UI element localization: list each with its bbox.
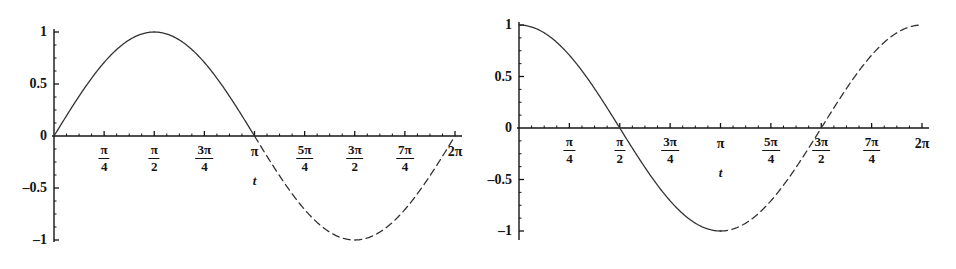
y-axis-tick-label: –0.5	[23, 181, 48, 195]
x-axis-variable-label: t	[719, 166, 723, 179]
fraction-numerator: π	[99, 143, 110, 159]
fraction-denominator: 4	[196, 159, 214, 174]
x-axis-tick-label-fraction: 7π4	[863, 135, 881, 165]
fraction-denominator: 4	[661, 151, 679, 166]
x-axis-tick-label-fraction: π2	[614, 135, 625, 165]
fraction-denominator: 4	[564, 151, 575, 166]
fraction-numerator: 3π	[346, 143, 364, 159]
y-axis-tick-label: 1	[40, 25, 47, 39]
fraction-numerator: 3π	[661, 135, 679, 151]
cosine-plot-canvas	[478, 0, 956, 269]
fraction-numerator: 3π	[196, 143, 214, 159]
fraction-denominator: 2	[149, 159, 160, 174]
x-axis-tick-label: π	[251, 145, 259, 159]
fraction-numerator: 3π	[812, 135, 830, 151]
y-axis-tick-label: 1	[505, 18, 512, 32]
y-axis-tick-label: –0.5	[488, 173, 513, 187]
fraction-denominator: 4	[863, 151, 881, 166]
x-axis-tick-label-fraction: 3π4	[661, 135, 679, 165]
x-axis-tick-label: 2π	[915, 137, 930, 151]
x-axis-tick-label-fraction: 7π4	[396, 143, 414, 173]
fraction-numerator: 5π	[762, 135, 780, 151]
y-axis-tick-label: 0.5	[30, 77, 48, 91]
sine-plot-canvas	[0, 0, 478, 269]
fraction-denominator: 4	[99, 159, 110, 174]
x-axis-tick-label-fraction: 3π2	[346, 143, 364, 173]
x-axis-tick-label-fraction: π2	[149, 143, 160, 173]
fraction-denominator: 4	[296, 159, 314, 174]
fraction-numerator: 7π	[396, 143, 414, 159]
y-axis-tick-label: –1	[33, 233, 47, 247]
x-axis-tick-label-fraction: 5π4	[762, 135, 780, 165]
cosine-plot-panel: 10.50–0.5–1π4π23π4π5π43π27π42πt	[478, 0, 956, 269]
y-axis-tick-label: 0	[505, 121, 512, 135]
fraction-numerator: π	[614, 135, 625, 151]
x-axis-variable-label: t	[253, 174, 257, 187]
fraction-denominator: 2	[614, 151, 625, 166]
y-axis-tick-label: –1	[498, 224, 512, 238]
x-axis-tick-label: π	[717, 137, 725, 151]
fraction-numerator: 7π	[863, 135, 881, 151]
sine-plot-panel: 10.50–0.5–1π4π23π4π5π43π27π42πt	[0, 0, 478, 269]
x-axis-tick-label-fraction: π4	[564, 135, 575, 165]
fraction-denominator: 4	[762, 151, 780, 166]
x-axis-tick-label: 2π	[448, 145, 463, 159]
x-axis-tick-label-fraction: 5π4	[296, 143, 314, 173]
y-axis-tick-label: 0	[40, 129, 47, 143]
two-panel-trig-figure: 10.50–0.5–1π4π23π4π5π43π27π42πt 10.50–0.…	[0, 0, 956, 269]
fraction-numerator: π	[564, 135, 575, 151]
fraction-numerator: 5π	[296, 143, 314, 159]
curve-solid-segment	[54, 32, 255, 136]
fraction-denominator: 4	[396, 159, 414, 174]
x-axis-tick-label-fraction: 3π2	[812, 135, 830, 165]
fraction-denominator: 2	[346, 159, 364, 174]
fraction-numerator: π	[149, 143, 160, 159]
x-axis-tick-label-fraction: π4	[99, 143, 110, 173]
x-axis-tick-label-fraction: 3π4	[196, 143, 214, 173]
y-axis-tick-label: 0.5	[495, 70, 513, 84]
fraction-denominator: 2	[812, 151, 830, 166]
